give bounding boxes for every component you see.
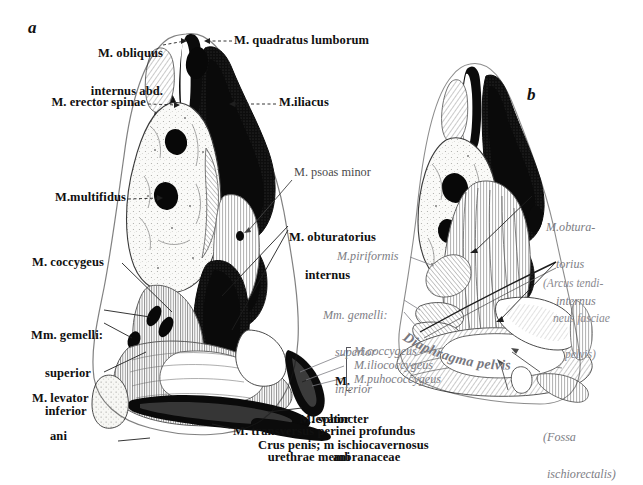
label-erector-spinae: M. erector spinae xyxy=(10,96,146,109)
label-obturatorius-internus-line2: internus xyxy=(289,269,376,282)
label-obliquus-internus-line1: M. obliquus xyxy=(46,47,163,60)
label-levator-ani-left-line1: M. levator xyxy=(32,392,89,405)
label-gemelli-b-line2: superior xyxy=(323,346,387,358)
label-gemelli-b-line1: Mm. gemelli: xyxy=(323,309,387,321)
label-crus-penis: Crus penis; m ischiocavernosus xyxy=(258,439,429,452)
label-iliacus: M.iliacus xyxy=(279,96,329,109)
figure-letter-b: b xyxy=(527,86,536,103)
label-arcus-tendineus-line1: (Arcus tendi- xyxy=(543,278,610,290)
label-psoas-minor: M. psoas minor xyxy=(294,166,371,179)
label-obturatorius-internus-b-line1: M.obtura- xyxy=(546,221,596,233)
label-gemelli-line1: Mm. gemelli: xyxy=(31,329,103,342)
label-arcus-tendineus-line2: neus fasciae xyxy=(543,313,610,325)
label-transversus-perinei: M. transversus perinei profundus xyxy=(233,425,415,438)
label-obturatorius-internus-line1: M. obturatorius xyxy=(289,231,376,244)
label-fossa-ischiorectalis: (Fossa ischiorectalis) xyxy=(543,406,616,485)
label-levator-ani-left-line2: ani xyxy=(32,430,89,443)
figure-letter-a: a xyxy=(28,19,37,36)
label-gemelli-b: Mm. gemelli: superior inferior xyxy=(323,284,387,420)
label-sphincter-urethrae-line2: urethrae membranaceae xyxy=(234,451,434,464)
label-fossa-ischiorectalis-line1: (Fossa xyxy=(543,431,616,443)
label-levator-ani-left: M. levator ani xyxy=(32,366,89,468)
label-arcus-tendineus: (Arcus tendi- neus fasciae pelvis) xyxy=(543,254,610,384)
label-multifidus: M.multifidus xyxy=(8,191,126,204)
label-arcus-tendineus-line3: pelvis) xyxy=(543,349,610,361)
label-quadratus-lumborum: M. quadratus lumborum xyxy=(234,34,369,47)
label-fossa-ischiorectalis-line2: ischiorectalis) xyxy=(543,468,616,480)
label-gemelli-b-line3: inferior xyxy=(323,383,387,395)
label-piriformis: M.piriformis xyxy=(337,250,399,262)
label-coccygeus: M. coccygeus xyxy=(32,256,104,269)
